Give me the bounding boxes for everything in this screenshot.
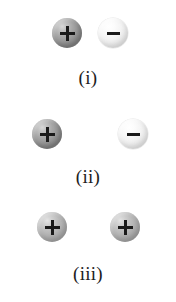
charge-pairs-figure: (i) (ii): [0, 0, 176, 302]
charge-sphere-positive: [37, 212, 67, 242]
panel-label-i: (i): [0, 68, 176, 87]
charge-sphere-positive: [32, 119, 62, 149]
charge-row-iii: [0, 212, 176, 248]
panel-label-ii: (ii): [0, 167, 176, 186]
plus-sign-icon: [60, 26, 75, 41]
plus-sign-icon: [40, 127, 55, 142]
panel-iii: [0, 212, 176, 248]
charge-sphere-positive: [110, 212, 140, 242]
panel-ii: [0, 119, 176, 155]
minus-sign-icon: [106, 26, 121, 41]
charge-sphere-negative: [98, 18, 128, 48]
charge-row-i: [0, 18, 176, 54]
panel-i: [0, 18, 176, 54]
charge-row-ii: [0, 119, 176, 155]
minus-sign-icon: [126, 127, 141, 142]
plus-sign-icon: [118, 220, 133, 235]
panel-label-iii: (iii): [0, 264, 176, 283]
plus-sign-icon: [45, 220, 60, 235]
charge-sphere-positive: [52, 18, 82, 48]
charge-sphere-negative: [118, 119, 148, 149]
